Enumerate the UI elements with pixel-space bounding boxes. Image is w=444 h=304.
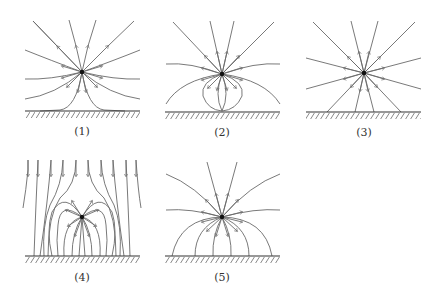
point-charge-4 — [80, 215, 84, 219]
point-charge-2 — [220, 72, 224, 76]
panel-label-3: (3) — [356, 126, 372, 139]
panel-label-5: (5) — [214, 271, 230, 284]
panel-4: (4) — [23, 160, 141, 284]
point-charge-1 — [80, 70, 84, 74]
panel-1: (1) — [25, 20, 140, 138]
panel-label-4: (4) — [74, 271, 90, 284]
panel-label-1: (1) — [74, 125, 90, 138]
field-line-figure: (1) (2) — [0, 0, 444, 304]
panel-2: (2) — [165, 21, 280, 139]
panel-5: (5) — [165, 162, 280, 284]
panel-label-2: (2) — [214, 126, 230, 139]
point-charge-3 — [362, 71, 366, 75]
panel-3: (3) — [306, 21, 421, 139]
point-charge-5 — [220, 215, 224, 219]
